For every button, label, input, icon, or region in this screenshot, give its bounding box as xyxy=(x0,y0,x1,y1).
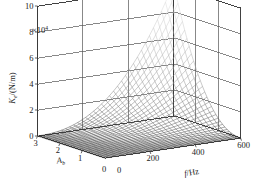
figure-3d-surface-plot: ×104 Ke/(N/m) Ab f/Hz 0 0 02468102004006… xyxy=(0,0,261,193)
surface-plot-canvas xyxy=(0,0,261,193)
